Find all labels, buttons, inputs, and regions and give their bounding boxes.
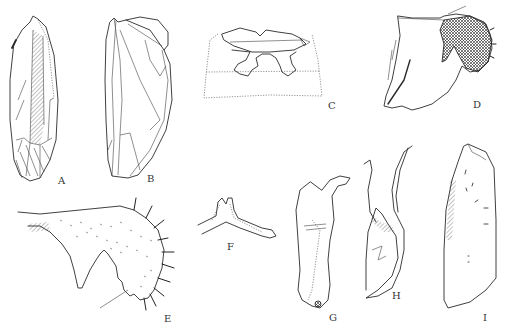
panel-d-pygofer-drawing	[384, 6, 496, 110]
panel-b-wing-drawing	[105, 17, 172, 178]
panel-c-apodeme-drawing	[204, 28, 322, 98]
panel-label-d: D	[473, 100, 481, 110]
panel-f-connective-drawing	[198, 198, 276, 238]
figure-plate: A B C D E F G H I	[0, 0, 520, 332]
panel-label-a: A	[58, 176, 65, 186]
panel-i-valve-drawing	[444, 144, 496, 308]
panel-label-i: I	[483, 313, 487, 323]
panel-e-plate-drawing	[18, 198, 174, 310]
panel-label-b: B	[147, 174, 154, 184]
panel-label-h: H	[392, 291, 401, 301]
panel-a-forewing-drawing	[10, 16, 58, 181]
panel-h-aedeagus-drawing	[364, 146, 412, 298]
panel-label-g: G	[329, 313, 337, 323]
panel-label-f: F	[227, 242, 234, 252]
panel-label-c: C	[328, 101, 336, 111]
panel-g-style-drawing	[296, 176, 350, 308]
panel-label-e: E	[164, 314, 171, 324]
